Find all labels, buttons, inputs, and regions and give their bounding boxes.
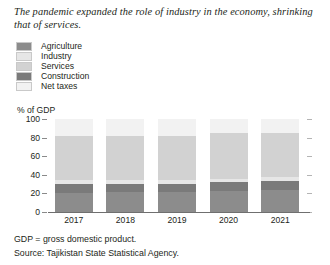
legend-label-construction: Construction [41,72,89,81]
legend-item-industry: Industry [16,51,89,61]
plot-area [48,119,306,212]
legend-item-net-taxes: Net taxes [16,82,89,92]
bar-segment[interactable] [106,136,144,181]
footnote-definition: GDP = gross domestic product. [14,234,136,244]
bar-column[interactable] [158,119,196,212]
y-axis-tick-right [307,138,312,139]
bar-column[interactable] [210,119,248,212]
bar-segment[interactable] [55,119,93,136]
legend-label-industry: Industry [41,52,72,61]
legend-swatch-net-taxes [16,82,32,91]
legend-label-services: Services [41,62,74,71]
legend-item-services: Services [16,61,89,71]
y-axis-tick-label: 60 [14,151,40,161]
bar-segment[interactable] [210,182,248,190]
y-axis-tick [42,175,47,176]
y-axis-tick [42,212,47,213]
legend-item-construction: Construction [16,72,89,82]
bar-segment[interactable] [158,119,196,136]
bar-segment[interactable] [55,193,93,212]
bar-segment[interactable] [55,136,93,181]
bar-segment[interactable] [106,192,144,212]
bar-segment[interactable] [261,119,299,133]
legend-label-net-taxes: Net taxes [41,82,77,91]
bar-segment[interactable] [158,184,196,192]
bar-segment[interactable] [261,133,299,177]
y-axis-tick-label: 100 [14,114,40,124]
y-axis-tick-right [307,156,312,157]
y-axis-tick-right [307,193,312,194]
legend-swatch-industry [16,52,32,61]
legend-swatch-services [16,62,32,71]
bar-segment[interactable] [210,133,248,179]
legend: Agriculture Industry Services Constructi… [16,41,89,92]
bar-column[interactable] [55,119,93,212]
y-axis-tick-label: 20 [14,188,40,198]
x-axis-tick-label: 2021 [250,215,310,225]
bar-column[interactable] [261,119,299,212]
bar-segment[interactable] [210,119,248,133]
y-axis-tick-label: 80 [14,133,40,143]
y-axis-tick-right [307,119,312,120]
y-axis-tick-right [307,175,312,176]
legend-swatch-agriculture [16,42,32,51]
y-axis-tick-label: 40 [14,170,40,180]
bar-segment[interactable] [261,181,299,189]
y-axis-tick [42,138,47,139]
y-axis-tick [42,156,47,157]
y-axis-tick [42,193,47,194]
legend-swatch-construction [16,72,32,81]
x-axis-line [48,212,310,213]
bar-segment[interactable] [261,190,299,212]
bar-segment[interactable] [106,184,144,192]
legend-label-agriculture: Agriculture [41,42,82,51]
figure-title: The pandemic expanded the role of indust… [14,5,316,31]
bar-segment[interactable] [158,192,196,212]
legend-item-agriculture: Agriculture [16,41,89,51]
figure: The pandemic expanded the role of indust… [0,0,330,265]
bar-segment[interactable] [210,191,248,212]
y-axis-tick-label: 0 [14,207,40,217]
bar-segment[interactable] [55,184,93,193]
bar-segment[interactable] [106,119,144,136]
bar-segment[interactable] [158,136,196,181]
footnote-source: Source: Tajikistan State Statistical Age… [14,248,179,258]
y-axis-tick [42,119,47,120]
bar-column[interactable] [106,119,144,212]
